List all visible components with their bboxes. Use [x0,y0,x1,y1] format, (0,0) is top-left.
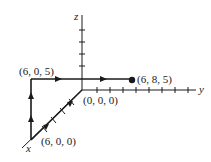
y-axis-label: y [199,84,204,95]
z-axis-label: z [74,11,78,22]
arrow-icon [28,115,34,122]
point-label-6-0-0: (6, 0, 0) [41,136,76,147]
arrow-icon [55,76,62,82]
path-segment-1 [31,90,82,140]
endpoint-dot [129,77,135,83]
arrow-icon [28,92,34,99]
point-label-6-0-5: (6, 0, 5) [19,66,54,77]
x-axis-label: x [26,143,31,154]
arrow-icon [100,76,107,82]
point-label-origin: (0, 0, 0) [83,95,118,106]
point-label-6-8-5: (6, 8, 5) [137,74,172,85]
coordinate-diagram [0,0,211,162]
